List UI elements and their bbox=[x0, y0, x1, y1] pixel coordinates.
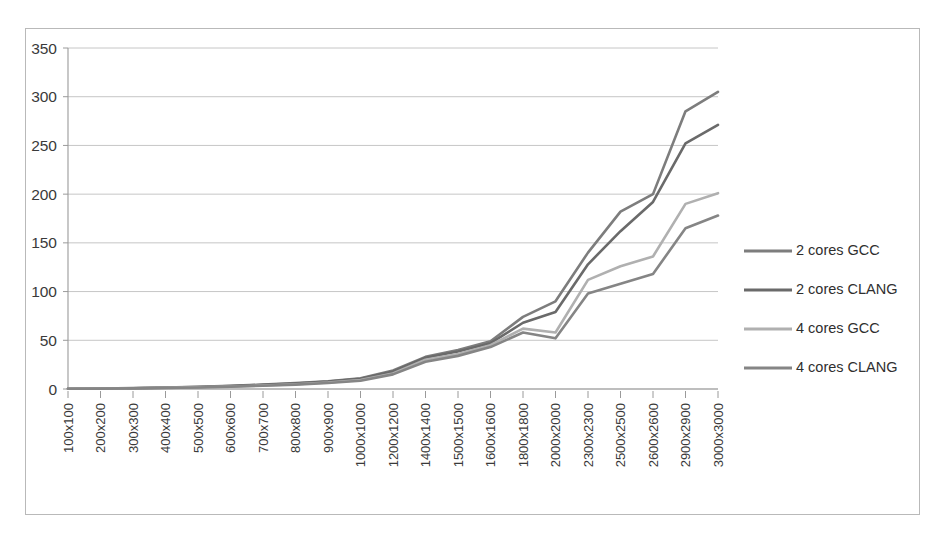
series-line-2 bbox=[68, 193, 718, 389]
x-axis-label: 2300x2300 bbox=[581, 403, 596, 467]
chart-frame: 050100150200250300350100x100200x200300x3… bbox=[25, 28, 920, 515]
x-axis-label: 1400x1400 bbox=[418, 403, 433, 467]
x-axis-label: 800x800 bbox=[288, 403, 303, 453]
x-axis-label: 1600x1600 bbox=[483, 403, 498, 467]
series-line-0 bbox=[68, 92, 718, 389]
x-axis-label: 1000x1000 bbox=[353, 403, 368, 467]
x-axis-label: 2000x2000 bbox=[548, 403, 563, 467]
y-axis-label: 350 bbox=[31, 40, 57, 57]
x-axis-label: 3000x3000 bbox=[711, 403, 726, 467]
x-axis-label: 900x900 bbox=[321, 403, 336, 453]
x-axis-label: 300x300 bbox=[126, 403, 141, 453]
legend-label-3: 4 cores CLANG bbox=[796, 359, 898, 375]
y-axis-label: 100 bbox=[31, 283, 57, 300]
x-axis-label: 2600x2600 bbox=[646, 403, 661, 467]
x-axis-label: 700x700 bbox=[256, 403, 271, 453]
line-chart: 050100150200250300350100x100200x200300x3… bbox=[26, 29, 921, 516]
y-axis-label: 50 bbox=[40, 332, 58, 349]
legend-label-0: 2 cores GCC bbox=[796, 242, 880, 258]
y-axis-label: 0 bbox=[48, 381, 57, 398]
x-axis-label: 1800x1800 bbox=[516, 403, 531, 467]
x-axis-label: 1500x1500 bbox=[451, 403, 466, 467]
y-axis-label: 300 bbox=[31, 88, 57, 105]
x-axis-label: 100x100 bbox=[61, 403, 76, 453]
x-axis-label: 600x600 bbox=[223, 403, 238, 453]
x-axis-label: 2500x2500 bbox=[613, 403, 628, 467]
series-line-1 bbox=[68, 125, 718, 389]
x-axis-label: 400x400 bbox=[158, 403, 173, 453]
chart-plot-container: 050100150200250300350100x100200x200300x3… bbox=[26, 29, 919, 514]
legend-label-1: 2 cores CLANG bbox=[796, 281, 898, 297]
series-line-3 bbox=[68, 216, 718, 389]
x-axis-label: 1200x1200 bbox=[386, 403, 401, 467]
x-axis-label: 500x500 bbox=[191, 403, 206, 453]
y-axis-label: 200 bbox=[31, 186, 57, 203]
y-axis-label: 150 bbox=[31, 234, 57, 251]
legend-label-2: 4 cores GCC bbox=[796, 320, 880, 336]
x-axis-label: 200x200 bbox=[93, 403, 108, 453]
x-axis-label: 2900x2900 bbox=[678, 403, 693, 467]
y-axis-label: 250 bbox=[31, 137, 57, 154]
